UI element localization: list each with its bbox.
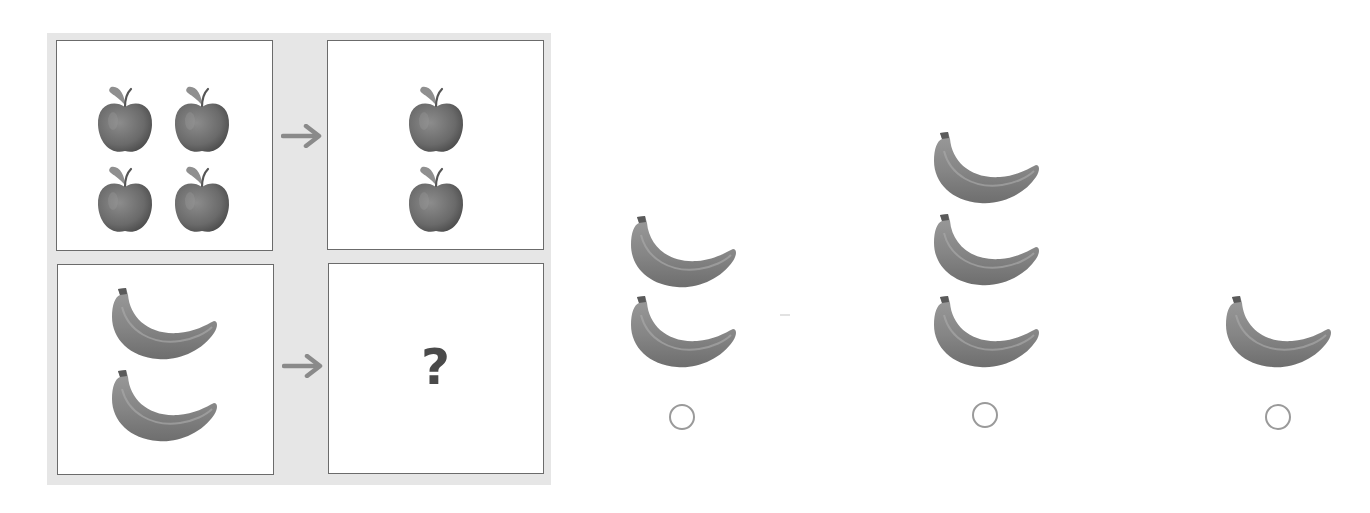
apple-icon (172, 163, 232, 235)
answer-option-3[interactable] (1215, 285, 1340, 435)
puzzle-box-row1-left (56, 40, 273, 251)
banana-icon (930, 295, 1040, 371)
apple-icon (95, 163, 155, 235)
banana-icon (627, 215, 737, 291)
apple-icon (406, 83, 466, 155)
banana-icon (1222, 295, 1332, 371)
option-1-radio[interactable] (669, 404, 695, 430)
apple-icon (172, 83, 232, 155)
puzzle-box-row1-right (327, 40, 544, 250)
answer-option-2[interactable] (923, 125, 1048, 435)
banana-icon (627, 295, 737, 371)
right-arrow-icon (281, 124, 323, 148)
divider-mark (780, 314, 790, 316)
banana-icon (930, 131, 1040, 207)
option-3-radio[interactable] (1265, 404, 1291, 430)
puzzle-box-row2-left (57, 264, 274, 475)
banana-icon (108, 287, 218, 363)
question-mark: ? (421, 342, 450, 392)
banana-icon (108, 369, 218, 445)
apple-icon (406, 163, 466, 235)
right-arrow-icon (282, 354, 324, 378)
answer-option-1[interactable] (620, 205, 745, 435)
puzzle-box-row2-right: ? (328, 263, 544, 474)
banana-icon (930, 213, 1040, 289)
option-2-radio[interactable] (972, 402, 998, 428)
apple-icon (95, 83, 155, 155)
